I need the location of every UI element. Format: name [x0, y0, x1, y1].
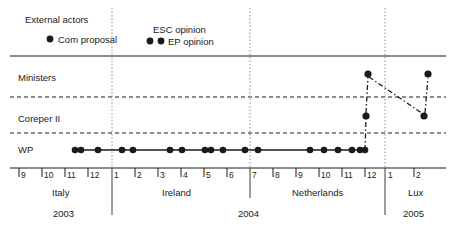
axis-tick-label: 2	[416, 170, 421, 181]
point-wp	[130, 147, 137, 154]
axis-tick-label: 1	[388, 170, 393, 181]
escalation-seg-wp-coreper	[365, 118, 366, 150]
point-wp	[167, 147, 174, 154]
escalation-path	[365, 77, 428, 150]
timeline-chart: External actors Ministers Coreper II WP …	[0, 0, 456, 231]
point-wp	[78, 147, 85, 154]
escalation-seg-ministers-coreper2	[369, 77, 423, 114]
point-esc-opinion	[147, 38, 154, 45]
axis-tick-label: 11	[67, 170, 76, 181]
axis-ticks	[19, 168, 414, 177]
axis-tick-label: 3	[160, 170, 165, 181]
year-label-2005: 2005	[403, 208, 424, 219]
axis-tick-label: 2	[137, 170, 142, 181]
point-minister	[424, 70, 431, 77]
escalation-seg-coreper2-ministers2	[425, 78, 428, 113]
year-dividers	[112, 8, 385, 215]
axis-tick-label: 9	[298, 170, 303, 181]
point-wp	[362, 147, 369, 154]
presidency-label-italy: Italy	[52, 187, 69, 198]
point-wp	[349, 147, 356, 154]
axis-tick-label: 7	[252, 170, 257, 181]
point-wp	[321, 147, 328, 154]
point-wp	[95, 147, 102, 154]
axis-tick-label: 9	[21, 170, 26, 181]
axis-tick-label: 12	[90, 170, 99, 181]
escalation-seg-coreper-ministers	[366, 77, 368, 113]
axis-tick-label: 4	[183, 170, 188, 181]
lane-label-external-actors: External actors	[25, 14, 88, 25]
lane-label-coreper-ii: Coreper II	[18, 113, 60, 124]
annotation-ep-opinion: EP opinion	[168, 36, 214, 47]
annotation-esc-opinion: ESC opinion	[153, 24, 206, 35]
ministers-points	[364, 70, 431, 77]
point-wp	[72, 147, 79, 154]
axis-tick-label: 12	[367, 170, 376, 181]
axis-tick-label: 10	[321, 170, 330, 181]
axis-tick-label: 6	[229, 170, 234, 181]
point-coreper	[362, 112, 369, 119]
lane-label-ministers: Ministers	[18, 72, 56, 83]
annotation-com-proposal: Com proposal	[58, 34, 117, 45]
point-ep-opinion	[158, 38, 165, 45]
presidency-label-netherlands: Netherlands	[292, 187, 343, 198]
point-wp	[255, 147, 262, 154]
year-label-2003: 2003	[53, 208, 74, 219]
axis-tick-label: 10	[44, 170, 53, 181]
point-wp	[119, 147, 126, 154]
year-label-2004: 2004	[238, 208, 259, 219]
axis-tick-label: 8	[275, 170, 280, 181]
presidency-label-lux: Lux	[408, 187, 423, 198]
point-wp	[307, 147, 314, 154]
axis-tick-label: 1	[114, 170, 119, 181]
presidency-label-ireland: Ireland	[162, 187, 191, 198]
point-wp	[208, 147, 215, 154]
point-wp	[242, 147, 249, 154]
lane-label-wp: WP	[18, 144, 33, 155]
point-com-proposal	[47, 36, 54, 43]
point-minister	[364, 70, 371, 77]
point-wp	[179, 147, 186, 154]
axis-tick-label: 11	[344, 170, 353, 181]
point-coreper	[420, 112, 427, 119]
point-wp	[335, 147, 342, 154]
coreper-points	[362, 112, 427, 119]
point-wp	[220, 147, 227, 154]
point-wp	[202, 147, 209, 154]
axis-tick-label: 5	[206, 170, 211, 181]
